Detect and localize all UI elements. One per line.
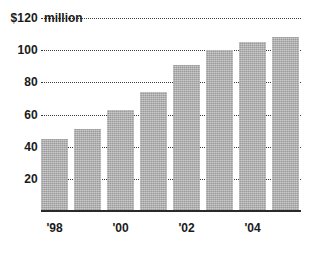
y-tick-label-120: $120: [0, 12, 38, 24]
bar-2005: [272, 37, 299, 211]
bar-2001: [140, 92, 167, 211]
y-tick-label-40: 40: [0, 141, 38, 153]
bar-2000: [107, 110, 134, 211]
x-tick-label-98: '98: [39, 221, 70, 235]
x-tick-label-00: '00: [105, 221, 136, 235]
y-tick-120-wrap: $120: [0, 12, 38, 24]
y-tick-label-80: 80: [0, 76, 38, 88]
x-tick-label-02: '02: [171, 221, 202, 235]
x-tick-label-04: '04: [237, 221, 268, 235]
x-axis-line: [41, 210, 301, 212]
y-tick-label-20: 20: [0, 173, 38, 185]
bar-1998: [41, 139, 68, 211]
y-tick-20-wrap: 20: [0, 173, 38, 185]
bar-2004: [239, 42, 266, 211]
y-tick-label-60: 60: [0, 109, 38, 121]
y-tick-label-100: 100: [0, 44, 38, 56]
y-tick-80-wrap: 80: [0, 76, 38, 88]
bar-2003: [206, 50, 233, 211]
bar-2002: [173, 65, 200, 211]
y-tick-40-wrap: 40: [0, 141, 38, 153]
y-tick-100-wrap: 100: [0, 44, 38, 56]
unit-label: million: [44, 12, 83, 24]
plot-area: $120 100 80 60 40 20 million '98 ': [0, 0, 317, 260]
bar-chart: $120 100 80 60 40 20 million '98 ': [0, 0, 317, 260]
bar-1999: [74, 129, 101, 211]
y-tick-60-wrap: 60: [0, 109, 38, 121]
